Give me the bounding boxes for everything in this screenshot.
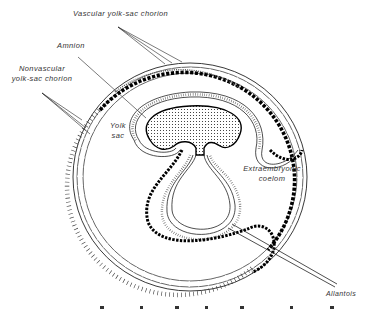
label-coelom-line1: Extraembryonic [240,164,304,174]
label-coelom-line2: coelom [240,174,304,184]
label-amnion: Amnion [57,41,85,51]
label-allantois: Allantois [326,289,356,299]
embryo-diagram [0,0,367,309]
label-nonvascular-line2: yolk-sac chorion [5,74,79,84]
label-yolk-line2: sac [108,131,128,141]
label-vascular-yolk-sac-chorion: Vascular yolk-sac chorion [73,9,168,19]
label-yolk-line1: Yolk [108,121,128,131]
vascular-band [100,72,295,250]
label-nonvascular-line1: Nonvascular [10,64,74,74]
yolk-stalk [162,155,240,239]
embryo-body [146,106,241,155]
